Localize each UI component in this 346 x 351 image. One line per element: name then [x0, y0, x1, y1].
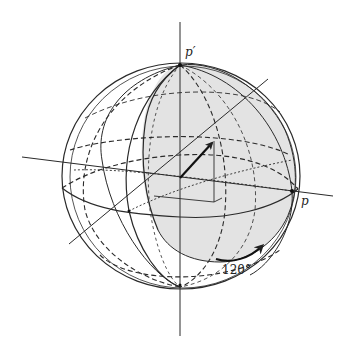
rotation-sphere-diagram: p′ p 120° — [0, 0, 346, 351]
bottom-pole-point — [179, 284, 182, 287]
label-p: p — [301, 194, 309, 208]
top-pole-point — [178, 63, 182, 67]
left-point — [128, 210, 131, 213]
label-rotation-angle: 120° — [222, 263, 251, 277]
label-top-pole: p′ — [185, 45, 196, 59]
point-p — [290, 189, 294, 193]
